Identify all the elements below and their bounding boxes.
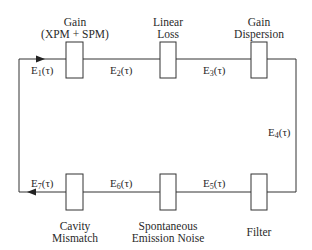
label-line1: Linear	[138, 16, 198, 28]
label-line1: Spontaneous	[122, 220, 214, 232]
label-line1: Filter	[234, 226, 284, 238]
arrow-right-icon	[36, 56, 45, 63]
label-spontaneous-emission-noise: Spontaneous Emission Noise	[122, 220, 214, 244]
label-line2: Emission Noise	[122, 232, 214, 244]
loop-path	[19, 59, 296, 192]
label-filter: Filter	[234, 226, 284, 238]
signal-e2: E2(τ)	[110, 64, 132, 78]
signal-e7: E7(τ)	[31, 177, 53, 191]
label-line1: Cavity	[44, 220, 106, 232]
label-linear-loss: Linear Loss	[138, 16, 198, 40]
signal-e6: E6(τ)	[110, 177, 132, 191]
label-line2: Dispersion	[224, 28, 294, 40]
label-line2: Loss	[138, 28, 198, 40]
signal-e3: E3(τ)	[203, 64, 225, 78]
label-cavity-mismatch: Cavity Mismatch	[44, 220, 106, 244]
label-line2: (XPM + SPM)	[34, 28, 116, 40]
signal-e1: E1(τ)	[31, 64, 53, 78]
signal-e5: E5(τ)	[203, 177, 225, 191]
signal-e4: E4(τ)	[268, 126, 290, 140]
cavity-mismatch-box	[66, 174, 83, 210]
label-line1: Gain	[34, 16, 116, 28]
linear-loss-box	[160, 42, 176, 78]
label-gain-xpm-spm: Gain (XPM + SPM)	[34, 16, 116, 40]
label-line1: Gain	[224, 16, 294, 28]
label-line2: Mismatch	[44, 232, 106, 244]
gain-dispersion-box	[251, 42, 267, 78]
spontaneous-emission-noise-box	[160, 174, 176, 210]
label-gain-dispersion: Gain Dispersion	[224, 16, 294, 40]
filter-box	[251, 174, 267, 210]
gain-xpm-spm-box	[66, 42, 83, 78]
